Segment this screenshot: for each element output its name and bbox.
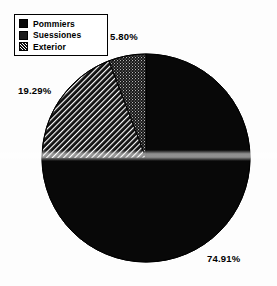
slice-label-exterior: 5.80%: [110, 31, 138, 42]
legend-item-exterior: Exterior: [19, 41, 103, 53]
stipple-swatch-icon: [19, 31, 28, 40]
slice-label-suessiones: 19.29%: [18, 85, 51, 96]
solid-black-swatch-icon: [19, 19, 28, 28]
legend-item-label: Exterior: [33, 42, 66, 52]
hatch-swatch-icon: [19, 42, 28, 51]
pie-chart-figure: Pommiers Suessiones Exterior 5.80% 19.29…: [0, 0, 277, 286]
legend-item-suessiones: Suessiones: [19, 30, 103, 42]
chart-legend: Pommiers Suessiones Exterior: [14, 14, 108, 56]
legend-item-label: Pommiers: [33, 19, 75, 29]
legend-item-pommiers: Pommiers: [19, 18, 103, 30]
slice-label-pommiers: 74.91%: [207, 253, 240, 264]
legend-item-label: Suessiones: [33, 30, 81, 40]
pie-slices-group: [42, 54, 250, 262]
